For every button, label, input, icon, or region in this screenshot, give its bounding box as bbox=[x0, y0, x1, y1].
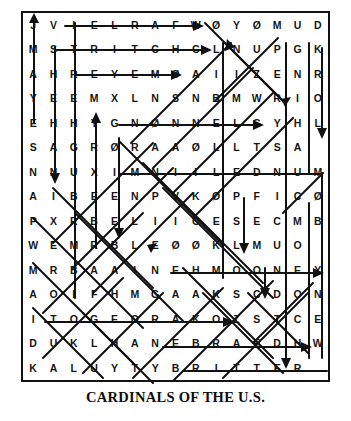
grid-cell: U bbox=[247, 37, 267, 61]
grid-cell: S bbox=[23, 135, 43, 159]
grid-cell: K bbox=[206, 233, 226, 257]
letter-grid: JVIELRAFWØYØMUDMSTRITCHCLNUPGKAHREYEMØAI… bbox=[23, 13, 328, 380]
grid-cell: Ø bbox=[206, 184, 226, 208]
grid-cell: W bbox=[247, 86, 267, 110]
grid-cell: R bbox=[64, 62, 84, 86]
grid-cell: C bbox=[287, 307, 307, 331]
grid-cell: T bbox=[226, 356, 246, 380]
grid-cell: E bbox=[64, 86, 84, 110]
grid-cell: R bbox=[84, 135, 104, 159]
grid-cell: L bbox=[84, 331, 104, 355]
grid-cell: P bbox=[145, 184, 165, 208]
grid-cell: U bbox=[43, 331, 63, 355]
grid-cell: D bbox=[247, 160, 267, 184]
grid-cell: M bbox=[226, 86, 246, 110]
grid-cell: B bbox=[186, 331, 206, 355]
grid-cell: A bbox=[23, 282, 43, 306]
grid-cell: A bbox=[165, 307, 185, 331]
grid-cell: E bbox=[43, 86, 63, 110]
grid-cell: A bbox=[186, 282, 206, 306]
grid-cell: H bbox=[43, 62, 63, 86]
grid-cell: R bbox=[267, 86, 287, 110]
grid-cell: N bbox=[186, 86, 206, 110]
grid-cell: D bbox=[267, 331, 287, 355]
grid-cell: Y bbox=[267, 111, 287, 135]
grid-cell: I bbox=[104, 37, 124, 61]
grid-cell: S bbox=[226, 209, 246, 233]
grid-cell: L bbox=[104, 13, 124, 37]
grid-cell: M bbox=[84, 86, 104, 110]
grid-cell: T bbox=[267, 307, 287, 331]
puzzle-grid-frame: JVIELRAFWØYØMUDMSTRITCHCLNUPGKAHREYEMØAI… bbox=[21, 11, 330, 382]
grid-cell: K bbox=[64, 331, 84, 355]
grid-cell: M bbox=[64, 233, 84, 257]
grid-cell: R bbox=[186, 356, 206, 380]
grid-cell: L bbox=[125, 209, 145, 233]
grid-cell: R bbox=[287, 356, 307, 380]
grid-cell: Ø bbox=[145, 111, 165, 135]
grid-cell: H bbox=[186, 258, 206, 282]
grid-cell: L bbox=[206, 135, 226, 159]
grid-cell: U bbox=[287, 13, 307, 37]
grid-cell: S bbox=[43, 37, 63, 61]
grid-cell: C bbox=[145, 37, 165, 61]
grid-cell: B bbox=[104, 233, 124, 257]
grid-cell: C bbox=[186, 37, 206, 61]
grid-cell: C bbox=[186, 209, 206, 233]
grid-cell: Y bbox=[308, 258, 328, 282]
grid-cell: A bbox=[104, 258, 124, 282]
grid-cell: I bbox=[165, 160, 185, 184]
grid-cell: N bbox=[308, 282, 328, 306]
grid-cell: S bbox=[247, 307, 267, 331]
grid-cell: E bbox=[84, 62, 104, 86]
grid-cell: R bbox=[84, 233, 104, 257]
grid-cell: S bbox=[165, 86, 185, 110]
grid-cell: P bbox=[267, 37, 287, 61]
grid-cell: U bbox=[84, 356, 104, 380]
grid-cell: I bbox=[145, 209, 165, 233]
grid-cell: E bbox=[287, 258, 307, 282]
grid-cell: E bbox=[267, 62, 287, 86]
grid-cell: J bbox=[23, 13, 43, 37]
grid-cell: Y bbox=[104, 356, 124, 380]
grid-cell: E bbox=[84, 184, 104, 208]
grid-cell: Ø bbox=[206, 13, 226, 37]
grid-cell: E bbox=[43, 233, 63, 257]
grid-cell: G bbox=[104, 111, 124, 135]
grid-cell: X bbox=[104, 86, 124, 110]
grid-cell: E bbox=[104, 307, 124, 331]
grid-cell: S bbox=[267, 135, 287, 159]
grid-cell: O bbox=[247, 258, 267, 282]
grid-cell: E bbox=[165, 331, 185, 355]
grid-cell: Y bbox=[23, 86, 43, 110]
grid-cell: R bbox=[206, 331, 226, 355]
grid-cell: I bbox=[226, 62, 246, 86]
grid-cell: N bbox=[43, 160, 63, 184]
grid-cell: L bbox=[206, 160, 226, 184]
grid-cell: G bbox=[247, 111, 267, 135]
grid-cell: H bbox=[43, 111, 63, 135]
grid-cell: E bbox=[247, 209, 267, 233]
grid-cell: E bbox=[104, 209, 124, 233]
grid-cell: B bbox=[165, 356, 185, 380]
grid-cell: A bbox=[145, 13, 165, 37]
grid-cell: L bbox=[125, 233, 145, 257]
grid-cell: Y bbox=[84, 111, 104, 135]
grid-cell: Y bbox=[226, 13, 246, 37]
grid-cell: A bbox=[23, 62, 43, 86]
grid-cell: E bbox=[125, 62, 145, 86]
grid-cell: M bbox=[125, 282, 145, 306]
grid-cell: R bbox=[84, 37, 104, 61]
grid-cell: K bbox=[186, 307, 206, 331]
grid-cell bbox=[308, 135, 328, 159]
grid-cell: A bbox=[165, 282, 185, 306]
grid-cell: I bbox=[206, 62, 226, 86]
grid-cell: D bbox=[267, 282, 287, 306]
grid-cell: I bbox=[104, 160, 124, 184]
grid-cell: L bbox=[226, 135, 246, 159]
grid-cell: N bbox=[186, 111, 206, 135]
grid-cell: T bbox=[247, 356, 267, 380]
grid-cell: A bbox=[84, 258, 104, 282]
grid-cell: N bbox=[145, 86, 165, 110]
grid-cell: Ø bbox=[308, 184, 328, 208]
